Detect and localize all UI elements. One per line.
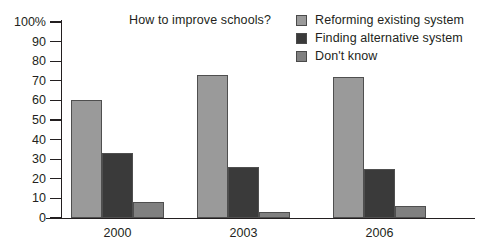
y-axis-labels: 0102030405060708090100%: [0, 0, 46, 252]
bar: [259, 212, 290, 218]
y-axis-tick-label: 40: [2, 134, 46, 147]
bar: [71, 100, 102, 218]
x-axis-tick-label: 2003: [177, 226, 310, 240]
y-axis-tick: [50, 119, 61, 120]
bar: [133, 202, 164, 218]
x-axis-tick-label: 2006: [313, 226, 446, 240]
x-axis-line: [46, 218, 475, 219]
y-axis-tick: [50, 61, 61, 62]
y-axis-tick-label: 50: [2, 114, 46, 127]
plot-area: [62, 22, 475, 218]
bar: [228, 167, 259, 218]
y-axis-tick-label: 30: [2, 153, 46, 166]
y-axis-tick: [50, 198, 61, 199]
y-axis-tick: [50, 139, 61, 140]
y-axis-tick: [50, 80, 61, 81]
bar: [197, 75, 228, 218]
y-axis-tick-label: 20: [2, 173, 46, 186]
y-axis-tick-label: 80: [2, 55, 46, 68]
y-axis-tick: [50, 178, 61, 179]
bar: [364, 169, 395, 218]
bar: [395, 206, 426, 218]
bar: [102, 153, 133, 218]
bar: [333, 77, 364, 218]
y-axis-tick-label: 100%: [2, 16, 46, 29]
y-axis-tick-label: 70: [2, 75, 46, 88]
y-axis-tick-label: 60: [2, 94, 46, 107]
y-axis-tick: [50, 41, 61, 42]
y-axis-tick: [50, 21, 61, 22]
y-axis-tick: [50, 159, 61, 160]
chart-figure: How to improve schools? Reforming existi…: [0, 0, 487, 252]
y-axis-tick-label: 90: [2, 36, 46, 49]
y-axis-tick-label: 0: [2, 212, 46, 225]
x-axis-tick-label: 2000: [51, 226, 184, 240]
y-axis-tick-label: 10: [2, 192, 46, 205]
y-axis-tick: [50, 100, 61, 101]
